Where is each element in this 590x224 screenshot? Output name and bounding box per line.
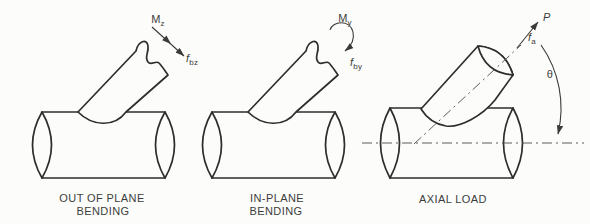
moment-label: Mz bbox=[151, 13, 165, 28]
panel-axial-load: P fa θ AXIAL LOAD bbox=[362, 11, 584, 205]
load-label: P bbox=[543, 11, 551, 23]
stress-label: fa bbox=[528, 31, 536, 46]
figure-canvas: Mz fbz OUT OF PLANE BENDING My fby IN-PL… bbox=[0, 0, 590, 224]
moment-arrow-icon bbox=[152, 27, 184, 56]
caption-line-1: IN-PLANE bbox=[250, 192, 304, 204]
stress-label: fbz bbox=[186, 52, 198, 67]
moment-label: My bbox=[338, 12, 352, 27]
caption-line-1: AXIAL LOAD bbox=[419, 193, 487, 205]
stress-label: fby bbox=[350, 56, 362, 71]
panel-out-of-plane-bending: Mz fbz OUT OF PLANE BENDING bbox=[33, 13, 199, 217]
caption-line-2: BENDING bbox=[77, 205, 130, 217]
panel-in-plane-bending: My fby IN-PLANE BENDING bbox=[203, 12, 363, 217]
caption-line-1: OUT OF PLANE bbox=[59, 192, 144, 204]
angle-arc-icon bbox=[541, 45, 561, 134]
angle-label: θ bbox=[547, 68, 553, 80]
joint-loading-diagram: Mz fbz OUT OF PLANE BENDING My fby IN-PL… bbox=[0, 0, 590, 224]
brace-tube bbox=[248, 41, 338, 123]
brace-tube bbox=[78, 41, 168, 123]
caption-line-2: BENDING bbox=[250, 205, 303, 217]
